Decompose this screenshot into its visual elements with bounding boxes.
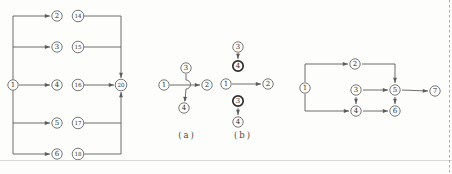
node-network-4: 4 [351, 106, 361, 116]
node-label: 14 [74, 13, 82, 19]
node-label: 2 [266, 80, 270, 88]
node-label: 2 [205, 81, 209, 89]
arrowhead [236, 110, 240, 115]
node-label: 4 [354, 107, 359, 115]
node-cross_b-1: 1 [221, 79, 231, 89]
arrowhead [119, 92, 123, 97]
node-label: 7 [433, 87, 437, 95]
diagram-cross_b: 341234 [221, 42, 273, 127]
node-label: 4 [55, 81, 60, 89]
node-label: 3 [184, 64, 188, 72]
node-fan-3: 3 [52, 42, 62, 52]
node-fan-1: 1 [8, 80, 18, 90]
node-fan-2: 2 [52, 11, 62, 21]
diagram-fan: 123456141516171820 [8, 10, 127, 160]
node-fan-18: 18 [72, 148, 84, 160]
figure-canvas: 12345614151617182012343412341234567 [0, 0, 452, 174]
sublabel-b: (b) [234, 130, 252, 140]
node-label: 1 [224, 80, 228, 88]
node-label: 1 [11, 81, 15, 89]
node-label: 3 [354, 86, 358, 94]
arrowhead [45, 83, 50, 87]
node-label: 4 [182, 104, 187, 112]
sublabel-a: (a) [178, 130, 196, 140]
node-network-5: 5 [390, 85, 400, 95]
node-cross_b-3: 3 [233, 42, 243, 52]
arrowhead [383, 109, 388, 113]
arrowhead [119, 73, 123, 78]
node-cross_b-2: 2 [263, 79, 273, 89]
node-label: 4 [236, 62, 241, 70]
node-cross_b-4: 4 [233, 117, 243, 127]
node-network-2: 2 [350, 59, 360, 69]
arrowhead [236, 54, 240, 59]
node-cross_a-4: 4 [179, 103, 189, 113]
diagram-network: 1234567 [300, 59, 440, 116]
node-fan-15: 15 [72, 41, 84, 53]
node-label: 1 [162, 81, 166, 89]
node-cross_a-2: 2 [202, 80, 212, 90]
node-label: 20 [117, 82, 125, 88]
arrowhead [183, 97, 187, 102]
node-fan-5: 5 [52, 118, 62, 128]
node-label: 3 [236, 43, 240, 51]
arrowhead [256, 82, 261, 86]
node-fan-17: 17 [72, 117, 84, 129]
node-label: 17 [74, 120, 82, 126]
arrowhead [45, 121, 50, 125]
arrowhead [45, 14, 50, 18]
node-cross_b-4: 4 [233, 61, 243, 71]
arrowhead [45, 45, 50, 49]
node-network-7: 7 [430, 86, 440, 96]
node-label: 18 [74, 151, 82, 157]
node-label: 15 [74, 44, 82, 50]
node-fan-6: 6 [52, 149, 62, 159]
arrowhead [195, 83, 200, 87]
diagram-cross_a: 1234 [159, 63, 212, 113]
arrowhead [344, 109, 349, 113]
node-network-6: 6 [390, 106, 400, 116]
node-label: 5 [55, 119, 59, 127]
node-network-3: 3 [351, 85, 361, 95]
node-label: 16 [74, 82, 82, 88]
node-label: 3 [55, 43, 59, 51]
node-label: 3 [236, 97, 240, 105]
node-label: 4 [236, 118, 241, 126]
node-label: 6 [393, 107, 398, 115]
node-cross_b-3: 3 [233, 96, 243, 106]
node-label: 5 [393, 86, 397, 94]
scanned-figure: 12345614151617182012343412341234567 (a) … [0, 0, 452, 174]
arrowhead [393, 78, 397, 83]
node-label: 6 [55, 150, 60, 158]
node-label: 2 [353, 60, 357, 68]
node-cross_a-3: 3 [181, 63, 191, 73]
arrowhead [423, 89, 428, 93]
arrowhead [343, 62, 348, 66]
arrowhead [45, 152, 50, 156]
edge [362, 64, 395, 83]
node-network-1: 1 [300, 83, 310, 93]
node-fan-4: 4 [52, 80, 62, 90]
node-fan-16: 16 [72, 79, 84, 91]
edge [305, 94, 349, 111]
node-label: 2 [55, 12, 59, 20]
arrowhead [393, 99, 397, 104]
node-label: 1 [303, 84, 307, 92]
node-fan-14: 14 [72, 10, 84, 22]
node-cross_a-1: 1 [159, 80, 169, 90]
node-fan-20: 20 [115, 79, 127, 91]
arrowhead [109, 83, 114, 87]
arrowhead [383, 88, 388, 92]
edge [305, 64, 348, 82]
arrowhead [354, 99, 358, 104]
